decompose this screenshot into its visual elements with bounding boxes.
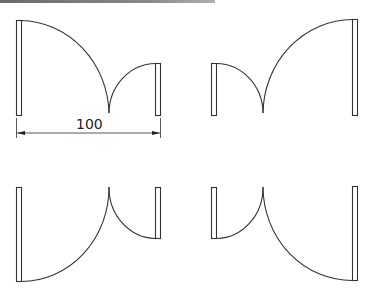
swing-arc-large xyxy=(263,187,353,281)
door-leaf-small xyxy=(212,188,217,239)
swing-arc-large xyxy=(22,187,110,282)
swing-arc-small xyxy=(217,64,264,114)
door-leaf-large xyxy=(17,188,22,282)
door-bottom-left xyxy=(17,187,161,282)
door-leaf-large xyxy=(353,20,358,116)
door-leaf-small xyxy=(156,64,161,116)
dimension-label: 100 xyxy=(76,116,103,132)
door-leaf-large xyxy=(353,187,358,281)
door-leaf-large xyxy=(17,21,22,116)
door-top-right xyxy=(212,20,358,116)
door-diagram: 100 xyxy=(0,0,373,293)
swing-arc-small xyxy=(109,64,156,114)
swing-arc-small xyxy=(109,187,156,239)
swing-arc-large xyxy=(263,20,353,114)
door-leaf-small xyxy=(212,64,217,116)
swing-arc-large xyxy=(21,21,109,114)
door-leaf-small xyxy=(156,188,161,239)
door-bottom-right xyxy=(212,187,358,281)
swing-arc-small xyxy=(217,187,264,239)
door-top-left xyxy=(17,21,161,116)
